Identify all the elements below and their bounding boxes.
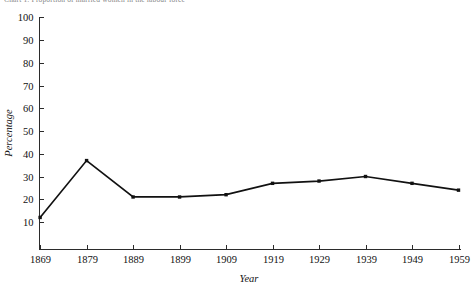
- x-tick-label: 1919: [263, 254, 284, 265]
- x-tick-label: 1909: [216, 254, 237, 265]
- x-tick-label: 1869: [30, 254, 51, 265]
- x-tick-label: 1879: [77, 254, 98, 265]
- data-point-marker: [317, 179, 320, 182]
- y-tick-label: 20: [23, 194, 34, 205]
- line-chart-plot: 102030405060708090100 186918791889189919…: [0, 0, 473, 294]
- x-tick-label: 1889: [123, 254, 144, 265]
- data-point-marker: [271, 182, 274, 185]
- x-tick-label: 1929: [309, 254, 330, 265]
- x-tick-label: 1949: [402, 254, 423, 265]
- data-point-marker: [178, 195, 181, 198]
- x-axis-title: Year: [240, 273, 260, 284]
- y-tick-label: 100: [18, 12, 34, 23]
- x-axis-tick-labels: 1869187918891899190919191929193919491959: [30, 254, 470, 265]
- data-point-marker: [224, 193, 227, 196]
- y-axis-tick-labels: 102030405060708090100: [18, 12, 34, 228]
- y-tick-label: 40: [23, 149, 34, 160]
- y-tick-label: 60: [23, 103, 34, 114]
- y-tick-label: 80: [23, 58, 34, 69]
- x-tick-label: 1899: [170, 254, 191, 265]
- data-point-marker: [131, 195, 134, 198]
- data-point-marker: [38, 216, 41, 219]
- x-tick-label: 1959: [449, 254, 470, 265]
- x-tick-label: 1939: [356, 254, 377, 265]
- x-axis-ticks: [41, 245, 460, 250]
- y-tick-label: 90: [23, 35, 34, 46]
- data-point-marker: [364, 175, 367, 178]
- y-axis-title: Percentage: [3, 109, 14, 158]
- y-tick-label: 50: [23, 126, 34, 137]
- data-point-marker: [457, 188, 460, 191]
- data-series-line: [40, 161, 458, 218]
- y-tick-label: 70: [23, 81, 34, 92]
- chart-figure: 102030405060708090100 186918791889189919…: [0, 0, 473, 294]
- data-point-marker: [410, 182, 413, 185]
- y-axis-ticks: [40, 18, 45, 223]
- y-tick-label: 30: [23, 172, 34, 183]
- y-tick-label: 10: [23, 217, 34, 228]
- data-point-marker: [85, 159, 88, 162]
